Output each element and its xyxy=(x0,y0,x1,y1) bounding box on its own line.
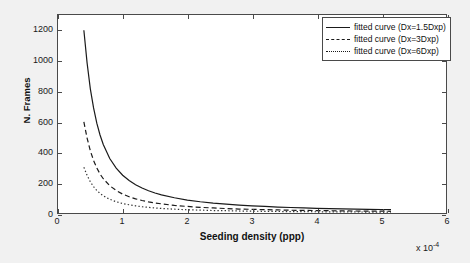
y-axis-tick-label: 1200 xyxy=(33,24,53,34)
x-axis-tick-mark xyxy=(188,15,189,19)
legend-line-sample xyxy=(326,47,350,55)
y-axis-tick-mark xyxy=(442,123,446,124)
x-axis-tick-mark xyxy=(318,209,319,213)
legend-label: fitted curve (Dx=1.5Dxp) xyxy=(354,21,446,33)
x-axis-tick-labels: 0123456 xyxy=(57,216,447,230)
x-axis-tick-mark xyxy=(58,209,59,213)
legend-item: fitted curve (Dx=1.5Dxp) xyxy=(326,21,446,33)
y-axis-tick-mark xyxy=(58,153,62,154)
x-axis-title: Seeding density (ppp) xyxy=(57,231,447,242)
x-axis-exponent: x 10-4 xyxy=(416,241,439,253)
x-axis-tick-label: 6 xyxy=(444,216,449,226)
y-axis-tick-mark xyxy=(58,61,62,62)
x-axis-tick-mark xyxy=(253,209,254,213)
legend-line-sample xyxy=(326,35,350,43)
y-axis-tick-mark xyxy=(442,153,446,154)
x-axis-tick-mark xyxy=(318,15,319,19)
legend-label: fitted curve (Dx=3Dxp) xyxy=(354,33,439,45)
y-axis-tick-mark xyxy=(442,61,446,62)
y-axis-tick-label: 200 xyxy=(38,178,53,188)
legend-item: fitted curve (Dx=3Dxp) xyxy=(326,33,446,45)
x-axis-tick-mark xyxy=(123,15,124,19)
x-axis-tick-mark xyxy=(383,209,384,213)
x-axis-tick-mark xyxy=(253,15,254,19)
y-axis-tick-label: 1000 xyxy=(33,55,53,65)
x-axis-tick-label: 5 xyxy=(379,216,384,226)
legend-line-sample xyxy=(326,23,350,31)
x-axis-exponent-power: -4 xyxy=(433,241,439,248)
x-axis-tick-label: 1 xyxy=(119,216,124,226)
x-axis-tick-label: 0 xyxy=(54,216,59,226)
x-axis-tick-label: 4 xyxy=(314,216,319,226)
y-axis-tick-mark xyxy=(58,92,62,93)
x-axis-tick-label: 3 xyxy=(249,216,254,226)
x-axis-exponent-base: x 10 xyxy=(416,243,433,253)
y-axis-tick-mark xyxy=(58,30,62,31)
y-axis-tick-label: 400 xyxy=(38,147,53,157)
x-axis-tick-mark xyxy=(448,209,449,213)
y-axis-tick-label: 0 xyxy=(48,209,53,219)
y-axis-tick-mark xyxy=(58,184,62,185)
y-axis-tick-labels: 020040060080010001200 xyxy=(14,14,53,214)
x-axis-tick-mark xyxy=(123,209,124,213)
y-axis-tick-label: 600 xyxy=(38,117,53,127)
y-axis-tick-label: 800 xyxy=(38,86,53,96)
x-axis-tick-mark xyxy=(188,209,189,213)
x-axis-tick-label: 2 xyxy=(184,216,189,226)
legend: fitted curve (Dx=1.5Dxp)fitted curve (Dx… xyxy=(322,17,451,61)
x-axis-tick-mark xyxy=(58,15,59,19)
legend-item: fitted curve (Dx=6Dxp) xyxy=(326,45,446,57)
y-axis-tick-mark xyxy=(442,92,446,93)
legend-label: fitted curve (Dx=6Dxp) xyxy=(354,45,439,57)
y-axis-tick-mark xyxy=(58,123,62,124)
chart-figure: N. Frames 020040060080010001200 0123456 … xyxy=(0,0,470,263)
y-axis-tick-mark xyxy=(442,184,446,185)
